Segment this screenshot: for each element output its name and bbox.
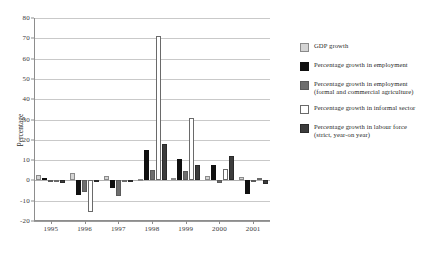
y-axis-tick-label: 30 bbox=[23, 116, 30, 124]
legend-label: GDP growth bbox=[314, 42, 348, 50]
legend-label: Percentage growth in employment(formal a… bbox=[314, 80, 414, 95]
y-axis-tick-mark bbox=[31, 200, 34, 201]
chart-legend: GDP growthPercentage growth in employmen… bbox=[300, 42, 446, 147]
legend-swatch-icon bbox=[300, 62, 309, 71]
legend-label: Percentage growth in informal sector bbox=[314, 104, 415, 112]
y-axis-tick-label: 60 bbox=[23, 55, 30, 63]
legend-item[interactable]: Percentage growth in informal sector bbox=[300, 104, 446, 114]
x-axis-tick-mark bbox=[152, 221, 153, 224]
x-axis-tick-label: 1995 bbox=[34, 225, 68, 233]
legend-item[interactable]: Percentage growth in labour force(strict… bbox=[300, 123, 446, 138]
x-axis-tick-mark bbox=[51, 221, 52, 224]
x-axis-tick-label: 2001 bbox=[236, 225, 270, 233]
y-axis-tick-mark bbox=[31, 139, 34, 140]
legend-item[interactable]: Percentage growth in employment(formal a… bbox=[300, 80, 446, 95]
legend-label-sub: (strict, year-on year) bbox=[314, 131, 407, 139]
x-axis-tick-label: 1999 bbox=[169, 225, 203, 233]
legend-item[interactable]: Percentage growth in employment bbox=[300, 61, 446, 71]
chart-figure: Percentage 80706050403020100-10-20 19951… bbox=[0, 0, 448, 259]
y-axis-tick-mark bbox=[31, 38, 34, 39]
legend-label-sub: (formal and commercial agriculture) bbox=[314, 88, 414, 96]
y-axis-tick-label: -20 bbox=[20, 217, 30, 225]
y-axis-line bbox=[34, 18, 35, 221]
legend-swatch-icon bbox=[300, 105, 309, 114]
legend-label: Percentage growth in labour force(strict… bbox=[314, 123, 407, 138]
y-axis-tick-label: 70 bbox=[23, 34, 30, 42]
y-axis-tick-mark bbox=[31, 160, 34, 161]
legend-item[interactable]: GDP growth bbox=[300, 42, 446, 52]
y-axis-tick-mark bbox=[31, 58, 34, 59]
legend-label: Percentage growth in employment bbox=[314, 61, 408, 69]
y-axis-tick-mark bbox=[31, 78, 34, 79]
x-axis-line bbox=[34, 220, 270, 221]
y-axis-tick-mark bbox=[31, 180, 34, 181]
x-axis-tick-label: 1996 bbox=[68, 225, 102, 233]
x-axis-tick-label: 2000 bbox=[203, 225, 237, 233]
x-axis-tick-label: 1997 bbox=[101, 225, 135, 233]
x-axis-labels: 1995199619971998199920002001 bbox=[34, 225, 270, 233]
y-axis-tick-label: 0 bbox=[26, 176, 30, 184]
y-axis-tick-mark bbox=[31, 18, 34, 19]
y-axis-tick-label: -10 bbox=[20, 197, 30, 205]
x-axis-tick-mark bbox=[186, 221, 187, 224]
plot-area: 80706050403020100-10-20 bbox=[34, 18, 270, 221]
y-axis-tick-label: 50 bbox=[23, 75, 30, 83]
x-axis-tick-mark bbox=[253, 221, 254, 224]
y-axis-tick-label: 80 bbox=[23, 14, 30, 22]
x-axis-tick-mark bbox=[219, 221, 220, 224]
legend-swatch-icon bbox=[300, 124, 309, 133]
y-axis-tick-label: 20 bbox=[23, 136, 30, 144]
y-axis-tick-mark bbox=[31, 221, 34, 222]
x-axis-tick-label: 1998 bbox=[135, 225, 169, 233]
axis-lines bbox=[34, 18, 270, 221]
x-axis-tick-mark bbox=[85, 221, 86, 224]
legend-swatch-icon bbox=[300, 43, 309, 52]
y-axis-tick-mark bbox=[31, 119, 34, 120]
y-axis-tick-label: 40 bbox=[23, 95, 30, 103]
y-axis-tick-mark bbox=[31, 99, 34, 100]
x-axis-tick-mark bbox=[118, 221, 119, 224]
y-axis-tick-label: 10 bbox=[23, 156, 30, 164]
legend-swatch-icon bbox=[300, 81, 309, 90]
